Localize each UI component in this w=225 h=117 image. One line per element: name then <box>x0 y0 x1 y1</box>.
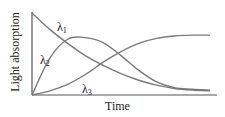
x-axis-label: Time <box>105 99 130 114</box>
series-line-lambda2 <box>32 37 210 95</box>
subscript: 1 <box>63 26 67 35</box>
series-label-lambda1: λ1 <box>57 21 67 37</box>
series-line-lambda3 <box>32 35 210 95</box>
subscript: 3 <box>88 88 92 97</box>
subscript: 2 <box>46 59 50 68</box>
chart: Light absorption Time λ1 λ2 λ3 <box>0 0 225 117</box>
series-label-lambda2: λ2 <box>40 54 50 70</box>
y-axis-label: Light absorption <box>7 7 23 97</box>
series-label-lambda3: λ3 <box>82 83 92 99</box>
